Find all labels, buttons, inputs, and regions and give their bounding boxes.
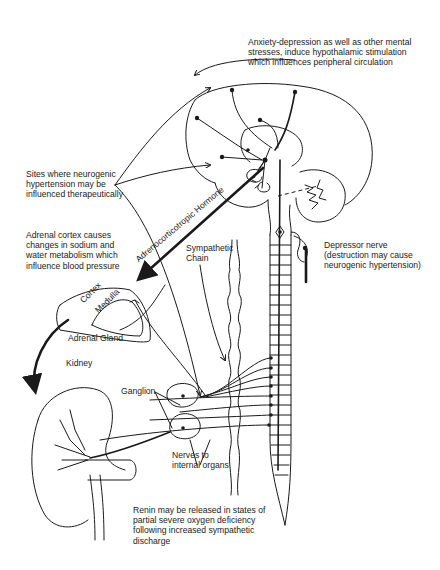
pointer-lines <box>115 59 295 395</box>
brain-neurons <box>195 88 297 188</box>
label-anxiety: Anxiety-depression as well as other ment… <box>248 37 411 68</box>
label-adrenal-cortex-effect: Adrenal cortex causes changes in sodium … <box>26 230 120 271</box>
spinal-cord <box>268 160 291 525</box>
sympathetic-chain <box>228 240 242 495</box>
label-renin: Renin may be released in states of parti… <box>133 505 265 546</box>
label-depressor-nerve: Depressor nerve (destruction may cause n… <box>324 240 421 271</box>
label-kidney: Kidney <box>66 358 92 368</box>
depressor-nerve <box>291 232 308 282</box>
label-sympathetic-chain: Sympathetic Chain <box>186 243 233 263</box>
blood-pressure-regulation-diagram: Anxiety-depression as well as other ment… <box>0 0 440 570</box>
label-nerves-internal: Nerves to internal organs <box>172 450 229 470</box>
label-adrenal-gland: Adrenal Gland <box>68 333 123 343</box>
diagram-drawing <box>0 0 440 570</box>
spinal-nerves <box>100 356 273 440</box>
label-ganglion: Ganglion <box>121 386 155 396</box>
label-sites: Sites where neurogenic hypertension may … <box>26 169 123 200</box>
